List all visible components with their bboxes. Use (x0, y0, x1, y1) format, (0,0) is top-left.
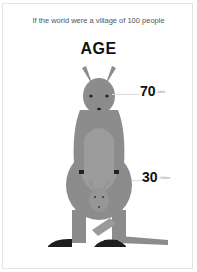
stat-adults-value: 70 (140, 83, 156, 99)
kangaroo-illustration (0, 0, 197, 272)
stat-children: 30children (142, 168, 170, 186)
stat-adults-label: adults (158, 90, 166, 94)
stat-children-label: children (160, 176, 171, 180)
stat-adults: 70adults (140, 82, 166, 100)
leader-line-adults (112, 94, 139, 95)
stat-children-value: 30 (142, 169, 158, 185)
